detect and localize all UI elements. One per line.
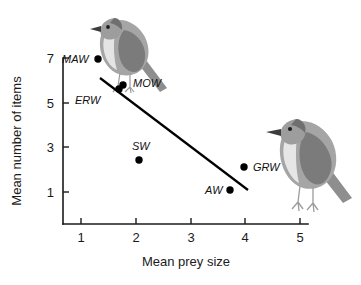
x-tick-label-1: 1 bbox=[77, 230, 84, 245]
y-axis-ticks bbox=[63, 58, 69, 192]
x-tick-label-3: 3 bbox=[187, 230, 194, 245]
y-tick-label-5: 5 bbox=[47, 96, 54, 111]
chart-figure: 7 5 3 1 1 2 3 4 5 Mean prey size Mean nu… bbox=[0, 0, 361, 285]
y-tick-label-1: 1 bbox=[47, 185, 54, 200]
x-axis-ticks bbox=[81, 218, 300, 224]
point-label-sw: SW bbox=[132, 140, 151, 152]
data-point-maw bbox=[94, 55, 101, 62]
x-axis-title: Mean prey size bbox=[142, 254, 230, 269]
x-tick-label-4: 4 bbox=[241, 230, 248, 245]
y-tick-label-3: 3 bbox=[47, 140, 54, 155]
x-tick-label-5: 5 bbox=[296, 230, 303, 245]
data-point-mow bbox=[119, 81, 126, 88]
x-tick-label-2: 2 bbox=[132, 230, 139, 245]
point-label-grw: GRW bbox=[253, 161, 281, 173]
point-label-erw: ERW bbox=[75, 94, 102, 106]
scatter-plot-canvas: 7 5 3 1 1 2 3 4 5 Mean prey size Mean nu… bbox=[0, 0, 361, 285]
data-point-sw bbox=[135, 156, 142, 163]
point-label-aw: AW bbox=[204, 184, 224, 196]
point-label-mow: MOW bbox=[133, 77, 163, 89]
trend-line bbox=[100, 78, 248, 190]
data-point-aw bbox=[226, 186, 233, 193]
point-label-maw: MAW bbox=[62, 53, 90, 65]
data-point-grw bbox=[240, 163, 247, 170]
y-axis-title: Mean number of items bbox=[9, 76, 24, 206]
y-tick-label-7: 7 bbox=[47, 51, 54, 66]
